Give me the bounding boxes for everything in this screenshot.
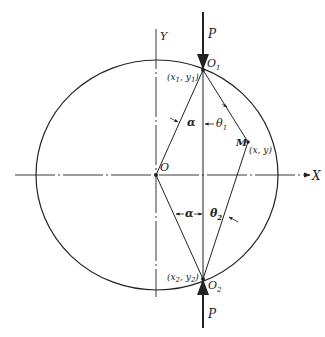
o2-coords: (x2, y2): [167, 272, 199, 284]
alpha-top-arrow: [170, 118, 178, 122]
point-o: [154, 173, 158, 177]
disk-compression-diagram: Y P P X O O1 (x1, y1) O2 (x2, y2) M (x, …: [0, 0, 325, 337]
theta1-label: θ1: [216, 117, 227, 132]
line-o-o2: [156, 175, 203, 279]
point-o2: [201, 277, 205, 281]
m-label: M: [235, 137, 248, 148]
force-label-bottom: P: [207, 307, 217, 321]
origin-label: O: [160, 161, 169, 174]
y-axis-label: Y: [160, 30, 169, 43]
o1-label: O1: [207, 57, 221, 72]
theta2-label: θ2: [210, 207, 222, 222]
x-axis-label: X: [311, 169, 321, 183]
theta2-arrow: [229, 217, 238, 222]
o1-coords: (x1, y1): [167, 72, 199, 84]
o2-label: O2: [208, 279, 222, 294]
point-o1: [201, 68, 205, 72]
m-coords: (x, y): [249, 145, 272, 155]
line-o1-o: [156, 70, 203, 175]
force-label-top: P: [207, 27, 217, 41]
alpha-bottom-label: α: [185, 207, 194, 220]
alpha-top-label: α: [187, 116, 196, 129]
